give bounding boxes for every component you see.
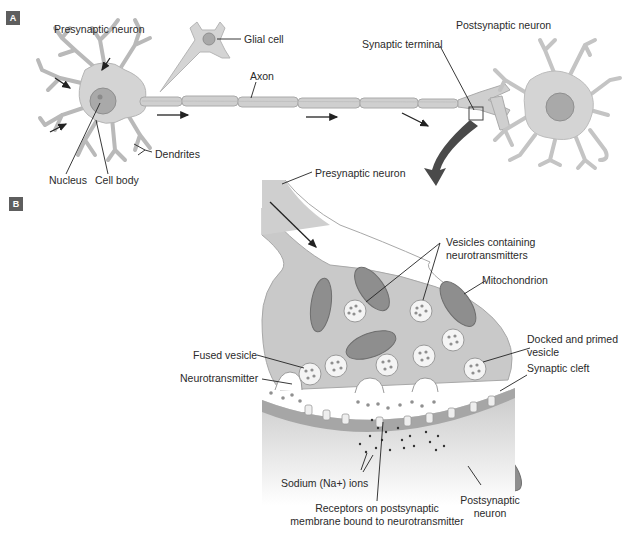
label-fused-vesicle: Fused vesicle <box>193 349 257 361</box>
label-vesicles-line1: Vesicles containing <box>446 236 535 248</box>
label-neurotransmitter: Neurotransmitter <box>180 372 258 384</box>
zoom-arrow <box>424 120 478 186</box>
label-receptors-line1: Receptors on postsynaptic <box>293 502 461 514</box>
label-docked-line2: vesicle <box>527 346 559 358</box>
neuron-synapse-diagram: A Presynaptic neuron Glial cell Axon Syn… <box>0 0 625 541</box>
label-synaptic-terminal: Synaptic terminal <box>362 38 443 50</box>
panel-a-badge: A <box>6 11 20 25</box>
panel-b-badge: B <box>9 197 23 211</box>
label-glial-cell: Glial cell <box>244 33 284 45</box>
nucleus-shape <box>90 88 116 114</box>
label-axon: Axon <box>250 70 274 82</box>
label-nucleus: Nucleus <box>49 174 87 186</box>
label-mitochondrion: Mitochondrion <box>482 274 548 286</box>
label-postsynaptic-line1: Postsynaptic <box>455 494 525 506</box>
label-presynaptic-neuron-a: Presynaptic neuron <box>54 23 144 35</box>
label-sodium-ions: Sodium (Na+) ions <box>281 477 368 489</box>
label-cell-body: Cell body <box>95 174 139 186</box>
label-dendrites: Dendrites <box>155 148 200 160</box>
label-presynaptic-neuron-b: Presynaptic neuron <box>315 167 405 179</box>
axon <box>140 84 510 130</box>
label-receptors-line2: membrane bound to neurotransmitter <box>283 515 471 527</box>
label-postsynaptic-neuron-a: Postsynaptic neuron <box>456 19 551 31</box>
label-docked-line1: Docked and primed <box>527 333 618 345</box>
label-vesicles-line2: neurotransmitters <box>446 249 528 261</box>
glial-cell <box>160 22 230 92</box>
label-postsynaptic-line2: neuron <box>455 507 525 519</box>
label-synaptic-cleft: Synaptic cleft <box>527 362 589 374</box>
diagram-artwork <box>0 0 625 541</box>
